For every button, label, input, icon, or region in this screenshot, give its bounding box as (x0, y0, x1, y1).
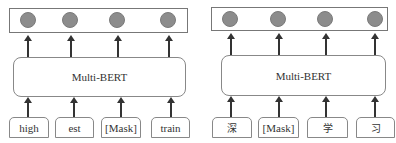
token-label: 习 (371, 120, 381, 135)
output-node (317, 11, 333, 27)
output-node (367, 11, 383, 27)
up-arrow-icon (325, 38, 327, 55)
up-arrow-icon (374, 38, 376, 55)
up-arrow-icon (278, 101, 280, 117)
output-node (270, 11, 286, 27)
token-label: [Mask] (263, 122, 295, 134)
encoder-label: Multi-BERT (276, 70, 332, 82)
up-arrow-icon (278, 38, 280, 55)
token-label: 学 (323, 120, 333, 135)
up-arrow-icon (230, 38, 232, 55)
input-token: 深 (212, 117, 252, 138)
output-node (222, 11, 238, 27)
input-token: [Mask] (258, 117, 299, 138)
up-arrow-icon (374, 101, 376, 117)
token-label: 深 (227, 120, 237, 135)
up-arrow-icon (325, 101, 327, 117)
multi-bert-encoder: Multi-BERT (221, 55, 386, 96)
input-token: 习 (356, 117, 395, 138)
up-arrow-icon (230, 101, 232, 117)
right-panel: Multi-BERT 深 [Mask] 学 习 (0, 0, 396, 143)
input-token: 学 (307, 117, 348, 138)
